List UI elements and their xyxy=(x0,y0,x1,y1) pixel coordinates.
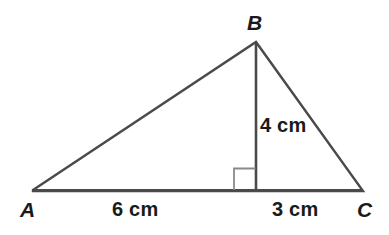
triangle-diagram: A B C 6 cm 3 cm 4 cm xyxy=(0,0,389,235)
vertex-label-a: A xyxy=(20,199,35,220)
right-angle-icon xyxy=(234,169,256,191)
vertex-label-b: B xyxy=(247,12,262,33)
vertex-label-c: C xyxy=(357,199,372,220)
measure-label-altitude: 4 cm xyxy=(260,115,306,135)
measure-label-base-right: 3 cm xyxy=(272,199,318,219)
triangle-figure xyxy=(0,0,389,235)
triangle-outline xyxy=(33,42,363,191)
measure-label-base-left: 6 cm xyxy=(112,199,158,219)
